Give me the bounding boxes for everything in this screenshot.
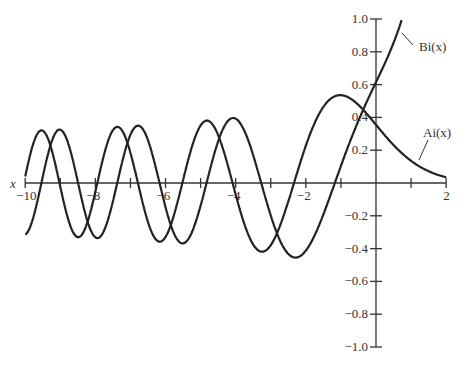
y-tick-label: 0.8 <box>352 44 368 59</box>
x-axis-label: x <box>9 176 16 191</box>
x-tick-label: −2 <box>297 188 311 203</box>
curves <box>25 20 446 258</box>
y-tick-label: −1.0 <box>344 339 368 354</box>
airy-functions-chart: −10−8−6−4−22 −1.0−0.8−0.6−0.4−0.20.20.40… <box>0 0 466 368</box>
y-tick-label: −0.8 <box>344 306 368 321</box>
bi-leader-line <box>402 33 413 45</box>
ai-label: Ai(x) <box>423 125 451 140</box>
x-tick-label: 2 <box>443 188 450 203</box>
y-tick-label: 0.6 <box>352 77 369 92</box>
bi-label: Bi(x) <box>419 39 446 54</box>
ai-leader-line <box>419 140 428 160</box>
y-tick-label: −0.6 <box>344 273 368 288</box>
y-tick-label: −0.2 <box>344 208 368 223</box>
y-tick-label: 1.0 <box>352 11 368 26</box>
y-tick-label: 0.2 <box>352 142 368 157</box>
ai-annotation: Ai(x) <box>419 125 451 160</box>
x-tick-label: −10 <box>16 188 36 203</box>
y-tick-label: −0.4 <box>344 241 368 256</box>
bi-annotation: Bi(x) <box>402 33 446 54</box>
